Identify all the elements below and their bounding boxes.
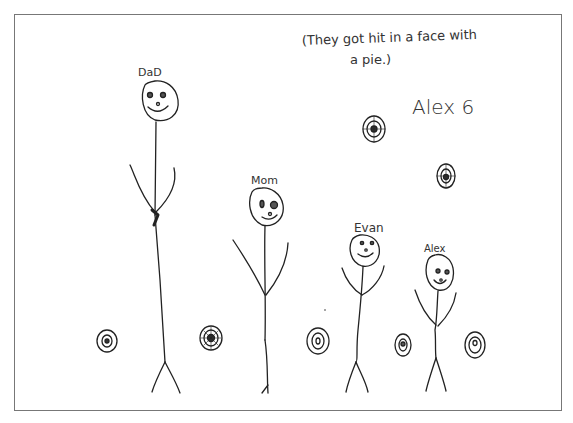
- figure-mom: Mom: [233, 174, 288, 393]
- signature: Alex 6: [412, 95, 474, 119]
- caption-line-1: (They got hit in a face with: [302, 27, 477, 48]
- figure-evan: Evan: [342, 221, 384, 392]
- crayon-drawing: (They got hit in a face with a pie.) Ale…: [0, 0, 573, 423]
- pie-icon: [97, 330, 117, 352]
- figure-label-evan: Evan: [354, 221, 384, 235]
- figure-dad: DaD: [130, 66, 180, 393]
- pie-icon: [307, 328, 329, 354]
- figure-label-alex: Alex: [424, 243, 446, 254]
- figure-label-dad: DaD: [138, 66, 162, 79]
- pie-icon: [200, 326, 222, 350]
- figure-alex: Alex: [415, 243, 456, 391]
- pie-icon: [395, 334, 411, 356]
- pie-icon: [437, 164, 455, 188]
- pie-icon: [363, 116, 385, 142]
- pie-icon: [465, 332, 485, 358]
- figure-label-mom: Mom: [251, 174, 278, 187]
- caption-line-2: a pie.): [350, 52, 391, 67]
